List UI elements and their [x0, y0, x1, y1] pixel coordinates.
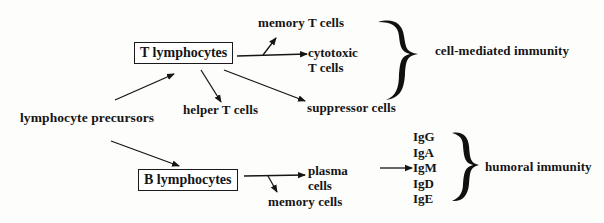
humoral-immunity-label: humoral immunity — [485, 160, 592, 174]
lymphocyte-diagram: T lymphocytes B lymphocytes lymphocyte p… — [0, 0, 604, 223]
cell-mediated-immunity-label: cell-mediated immunity — [435, 44, 569, 58]
humoral-brace-icon — [452, 133, 479, 202]
braces-layer — [0, 0, 604, 223]
cell-mediated-brace-icon — [378, 21, 418, 100]
